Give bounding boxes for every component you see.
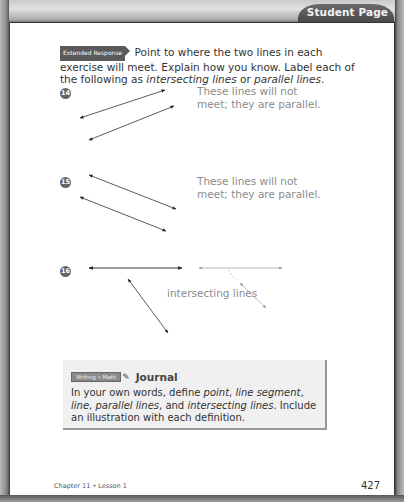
answer-line-16c	[240, 283, 266, 308]
line-16b	[128, 279, 168, 333]
journal-box: Writing • Math✎Journal In your own words…	[63, 360, 327, 430]
chapter-lesson-label: Chapter 11 • Lesson 1	[54, 482, 127, 490]
writing-math-badge: Writing • Math	[71, 372, 121, 382]
pen-icon: ✎	[122, 372, 130, 382]
line-14a	[80, 90, 165, 118]
journal-title: Journal	[136, 371, 178, 383]
answer-line-16b	[228, 270, 236, 280]
journal-prompt: In your own words, define point, line se…	[71, 387, 317, 425]
line-15b	[80, 197, 166, 231]
page-number: 427	[361, 480, 380, 491]
line-15a	[89, 175, 176, 209]
